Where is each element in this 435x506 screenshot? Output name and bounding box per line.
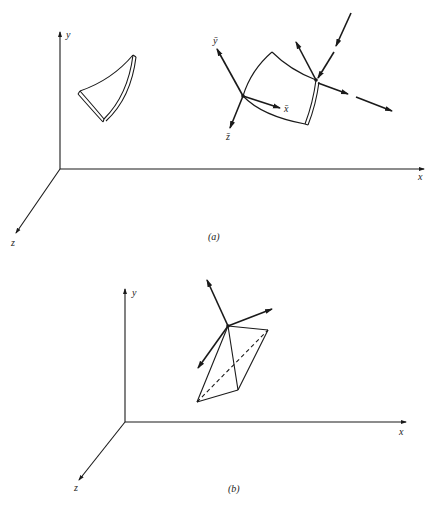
- figure-canvas: y x z ȳ: [0, 0, 435, 506]
- x-axis-label: x: [417, 171, 423, 182]
- shell-element-small: [78, 55, 136, 122]
- z-axis-label: z: [10, 237, 15, 248]
- outgoing-force-vector: [318, 83, 348, 94]
- tetrahedron: [197, 324, 268, 402]
- x-axis-label: x: [398, 426, 404, 437]
- y-bar-axis: [217, 49, 243, 96]
- z-axis: [16, 169, 60, 233]
- panel-a: y x z ȳ: [10, 13, 424, 248]
- z-bar-label: z̄: [225, 131, 230, 142]
- normal-vector: [296, 42, 316, 80]
- shell-element-local: ȳ x̄ z̄: [212, 13, 392, 142]
- global-axes-a: y x z: [10, 29, 424, 248]
- outgoing-force-vector-head: [356, 97, 392, 111]
- y-axis-label: y: [65, 29, 71, 40]
- z-bar-axis: [230, 96, 243, 128]
- z-axis-label: z: [73, 482, 78, 493]
- incoming-force-vector-head: [336, 13, 351, 46]
- x-bar-axis: [243, 96, 280, 108]
- panel-b: y x z (b): [73, 280, 406, 495]
- y-bar-label: ȳ: [212, 35, 218, 46]
- caption-a: (a): [208, 231, 220, 243]
- global-axes-b: y x z: [73, 287, 406, 493]
- apex-vectors: [198, 280, 272, 368]
- caption-b: (b): [228, 483, 240, 495]
- incoming-force-vector: [318, 52, 334, 78]
- vector-right: [228, 309, 272, 326]
- z-axis: [79, 422, 125, 480]
- x-bar-label: x̄: [283, 103, 289, 114]
- vector-up: [207, 280, 228, 326]
- y-axis-label: y: [131, 287, 137, 298]
